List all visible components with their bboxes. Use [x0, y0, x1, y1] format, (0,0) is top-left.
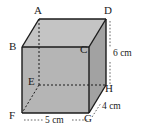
vertex-label-C: C [80, 44, 87, 55]
vertex-label-D: D [104, 5, 112, 16]
vertex-label-E: E [28, 76, 35, 87]
vertex-label-A: A [34, 5, 42, 16]
vertex-label-H: H [105, 83, 113, 94]
dimension-label-height: 6 cm [113, 48, 132, 58]
cuboid-diagram: A B C D E F G H 6 cm 4 cm 5 cm [0, 0, 141, 130]
vertex-label-B: B [9, 41, 16, 52]
vertex-label-F: F [9, 110, 15, 121]
dimension-label-depth: 4 cm [102, 101, 121, 111]
dimension-label-width: 5 cm [45, 115, 64, 125]
vertex-label-G: G [84, 113, 92, 124]
